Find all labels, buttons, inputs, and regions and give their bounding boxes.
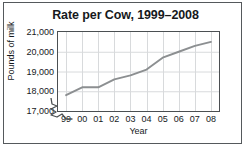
x-axis-tick-labels: 99000102030405060708 [57, 114, 220, 126]
y-tick-20000: 20,000 [18, 47, 54, 57]
chart-figure: Rate per Cow, 1999–2008 Pounds of milk 1… [0, 0, 251, 151]
x-tick-06: 06 [174, 114, 184, 124]
x-tick-07: 07 [190, 114, 200, 124]
x-tick-00: 00 [77, 114, 87, 124]
y-tick-18000: 18,000 [18, 86, 54, 96]
chart-title: Rate per Cow, 1999–2008 [0, 8, 251, 22]
x-tick-03: 03 [125, 114, 135, 124]
x-tick-04: 04 [142, 114, 152, 124]
plot-area [57, 31, 220, 112]
x-tick-01: 01 [93, 114, 103, 124]
x-axis-title: Year [57, 126, 220, 136]
axis-break-icon [48, 98, 74, 122]
x-tick-02: 02 [109, 114, 119, 124]
y-tick-19000: 19,000 [18, 67, 54, 77]
x-tick-08: 08 [206, 114, 216, 124]
y-axis-title: Pounds of milk [6, 13, 16, 89]
y-tick-21000: 21,000 [18, 27, 54, 37]
data-series-line [58, 32, 219, 111]
x-tick-05: 05 [158, 114, 168, 124]
